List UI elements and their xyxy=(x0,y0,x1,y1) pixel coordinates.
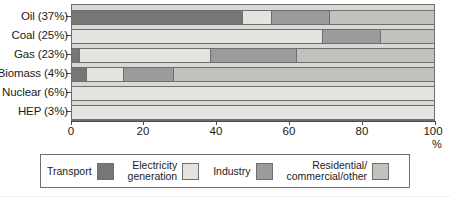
bar-row xyxy=(72,48,434,63)
y-axis-label-coal: Coal (25%) xyxy=(0,29,68,41)
bar-segment xyxy=(380,30,434,43)
y-axis-label-nuclear: Nuclear (6%) xyxy=(0,86,68,98)
bar-row xyxy=(72,10,434,25)
bar-segment xyxy=(242,11,271,24)
bar-row xyxy=(72,105,434,120)
bar-segment xyxy=(72,30,322,43)
bar-segment xyxy=(72,49,79,62)
legend-label-electricity-generation: Electricity generation xyxy=(128,160,183,182)
bar-segment xyxy=(86,68,122,81)
bar-row xyxy=(72,29,434,44)
legend-label-industry: Industry xyxy=(213,166,255,177)
y-axis-label-hep: HEP (3%) xyxy=(0,105,68,117)
bar-segment xyxy=(271,11,329,24)
y-axis-label-oil: Oil (37%) xyxy=(0,10,68,22)
bar-segment xyxy=(173,68,434,81)
legend-item-industry[interactable]: Industry xyxy=(213,163,272,180)
bar-row xyxy=(72,67,434,82)
bar-segment xyxy=(79,49,209,62)
bar-segment xyxy=(296,49,434,62)
x-axis-tick-label-40: 40 xyxy=(210,125,223,137)
legend: Transport Electricity generation Industr… xyxy=(40,154,410,188)
legend-label-residential-commercial-other: Residential/ commercial/other xyxy=(287,160,373,182)
bar-segment xyxy=(72,11,242,24)
x-axis-tick-label-20: 20 xyxy=(137,125,150,137)
bar-segment xyxy=(322,30,380,43)
x-axis-tick-label-0: 0 xyxy=(68,125,74,137)
bar-row xyxy=(72,86,434,101)
plot-area xyxy=(71,4,435,121)
chart-figure: Oil (37%) Coal (25%) Gas (23%) Biomass (… xyxy=(0,0,451,198)
y-axis-label-gas: Gas (23%) xyxy=(0,48,68,60)
bar-segment xyxy=(72,106,434,119)
x-axis-line xyxy=(71,121,436,122)
legend-swatch-residential-commercial-other xyxy=(372,163,389,180)
legend-label-transport: Transport xyxy=(47,166,97,177)
x-axis-tick-label-60: 60 xyxy=(283,125,296,137)
bar-segment xyxy=(329,11,434,24)
x-axis-tick-label-80: 80 xyxy=(356,125,369,137)
legend-swatch-transport xyxy=(97,163,114,180)
x-axis-unit-label: % xyxy=(432,138,442,150)
legend-swatch-industry xyxy=(256,163,273,180)
legend-item-transport[interactable]: Transport xyxy=(47,163,114,180)
bar-segment xyxy=(123,68,174,81)
x-axis-tick-label-100: 100 xyxy=(423,125,442,137)
page-rule xyxy=(0,196,451,197)
legend-item-residential-commercial-other[interactable]: Residential/ commercial/other xyxy=(287,160,390,182)
bar-segment xyxy=(72,68,86,81)
y-axis-label-biomass: Biomass (4%) xyxy=(0,67,68,79)
bar-segment xyxy=(210,49,297,62)
legend-item-electricity-generation[interactable]: Electricity generation xyxy=(128,160,200,182)
legend-swatch-electricity-generation xyxy=(182,163,199,180)
bar-segment xyxy=(72,87,434,100)
